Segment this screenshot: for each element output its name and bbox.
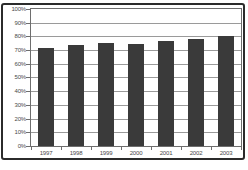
plot-area — [30, 8, 242, 147]
bar-1997 — [38, 48, 54, 146]
x-tick-label-1997: 1997 — [31, 150, 61, 157]
y-tick-50 — [26, 77, 30, 78]
y-tick-40 — [26, 91, 30, 92]
x-tick-label-2000: 2000 — [121, 150, 151, 157]
y-tick-60 — [26, 64, 30, 65]
bar-2002 — [188, 39, 204, 146]
x-tick-label-2002: 2002 — [181, 150, 211, 157]
y-tick-label-100: 100% — [2, 6, 26, 13]
y-tick-label-50: 50% — [2, 74, 26, 81]
y-tick-80 — [26, 36, 30, 37]
y-tick-30 — [26, 105, 30, 106]
y-tick-90 — [26, 23, 30, 24]
y-tick-70 — [26, 50, 30, 51]
y-tick-10 — [26, 132, 30, 133]
y-tick-label-70: 70% — [2, 47, 26, 54]
y-tick-0 — [26, 146, 30, 147]
bar-2001 — [158, 41, 174, 146]
y-tick-20 — [26, 119, 30, 120]
x-tick-7 — [241, 147, 242, 150]
gridline-80 — [31, 36, 241, 37]
x-tick-label-2003: 2003 — [211, 150, 241, 157]
y-tick-label-90: 90% — [2, 20, 26, 27]
y-tick-label-20: 20% — [2, 116, 26, 123]
y-tick-label-80: 80% — [2, 33, 26, 40]
bar-2000 — [128, 44, 144, 146]
bar-2003 — [218, 36, 234, 146]
x-tick-label-2001: 2001 — [151, 150, 181, 157]
y-tick-label-0: 0% — [2, 143, 26, 150]
x-tick-label-1999: 1999 — [91, 150, 121, 157]
bar-1998 — [68, 45, 84, 146]
bar-chart-screenshot: 0%10%20%30%40%50%60%70%80%90%100% 199719… — [0, 0, 248, 170]
y-tick-label-40: 40% — [2, 88, 26, 95]
gridline-90 — [31, 23, 241, 24]
y-tick-label-30: 30% — [2, 102, 26, 109]
y-tick-label-60: 60% — [2, 61, 26, 68]
y-tick-100 — [26, 9, 30, 10]
y-tick-label-10: 10% — [2, 129, 26, 136]
x-tick-label-1998: 1998 — [61, 150, 91, 157]
bar-1999 — [98, 43, 114, 146]
